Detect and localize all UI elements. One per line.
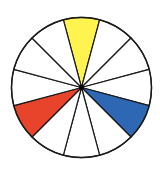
center-hub xyxy=(79,85,83,89)
color-wheel xyxy=(0,0,160,170)
